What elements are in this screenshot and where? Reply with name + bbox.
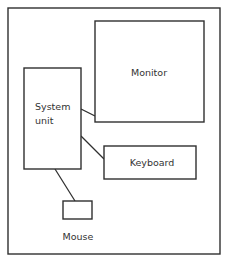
monitor-node: Monitor: [95, 21, 204, 122]
keyboard-node: Keyboard: [104, 146, 196, 179]
system-unit-label-line2: unit: [35, 115, 54, 126]
system-unit-label-line1: System: [35, 101, 70, 112]
system-unit-node: System unit: [24, 68, 81, 169]
monitor-label: Monitor: [131, 67, 167, 78]
computer-system-diagram: Monitor System unit Keyboard Mouse: [0, 0, 226, 262]
keyboard-label: Keyboard: [130, 157, 175, 168]
mouse-box: [63, 201, 92, 219]
mouse-label: Mouse: [63, 231, 94, 242]
